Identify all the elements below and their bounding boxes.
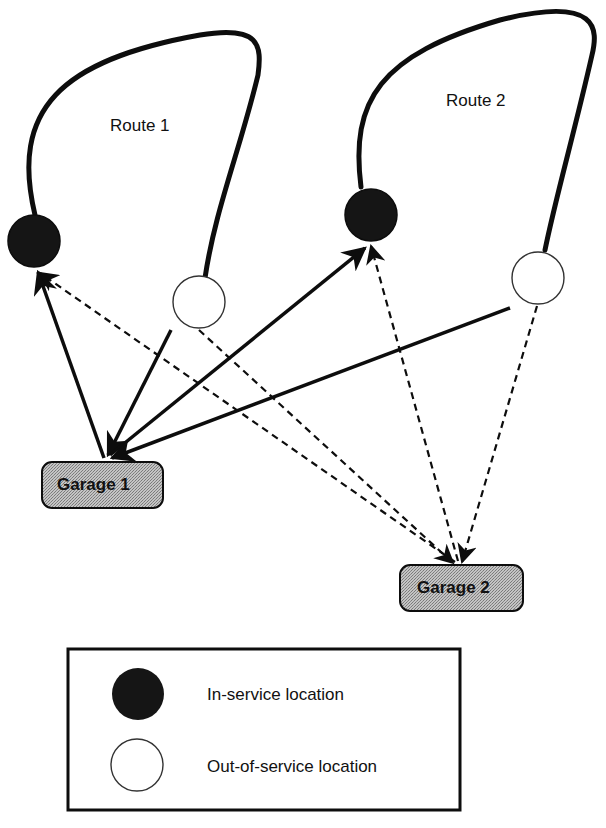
route-garage-diagram: Route 1 Route 2 Garage 1 Garage 2 — [0, 0, 606, 828]
legend-in-service-icon — [112, 668, 164, 720]
edge-route2-out-to-garage2 — [462, 306, 537, 562]
edge-garage2-to-route1-in — [40, 273, 455, 562]
garage-2-label: Garage 2 — [417, 578, 490, 597]
edge-garage1-to-route1-in — [38, 272, 104, 458]
dashed-edges — [40, 246, 537, 563]
garage-1: Garage 1 — [42, 462, 163, 508]
route-2-label: Route 2 — [446, 91, 506, 110]
garage-1-label: Garage 1 — [57, 475, 130, 494]
edge-route1-out-to-garage2 — [199, 330, 453, 563]
route-1-out-of-service-location — [173, 276, 225, 328]
edge-route1-out-to-garage1 — [108, 330, 171, 455]
route-2-in-service-location — [345, 189, 397, 241]
legend-out-of-service-label: Out-of-service location — [207, 757, 377, 776]
legend: In-service location Out-of-service locat… — [68, 649, 460, 810]
route-1-in-service-location — [8, 215, 60, 267]
route-1: Route 1 — [29, 32, 259, 278]
solid-edges — [38, 248, 510, 458]
route-2-out-of-service-location — [512, 252, 564, 304]
legend-out-of-service-icon — [111, 739, 163, 791]
route-1-path — [29, 32, 259, 278]
legend-in-service-label: In-service location — [207, 685, 344, 704]
edge-garage1-to-route2-in — [110, 248, 365, 455]
locations — [8, 189, 564, 328]
route-1-label: Route 1 — [110, 116, 170, 135]
garage-2: Garage 2 — [400, 565, 523, 611]
